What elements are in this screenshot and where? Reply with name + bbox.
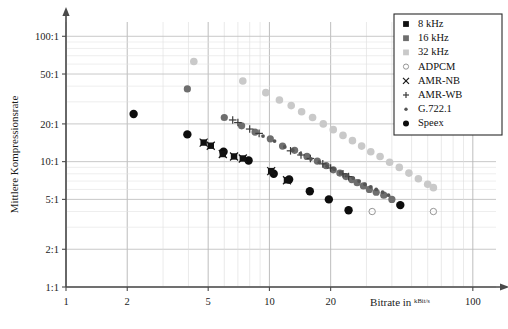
- data-point: [298, 108, 306, 116]
- legend-label: Speex: [418, 117, 444, 128]
- legend-marker: [403, 35, 409, 41]
- legend-label: 32 kHz: [418, 46, 449, 57]
- compression-rate-vs-bitrate-chart: 1:12:15:110:120:150:1100:11251020100Mitt…: [0, 0, 508, 329]
- legend-marker: [404, 108, 407, 111]
- x-axis-label: Bitrate in kBit/s: [370, 296, 430, 308]
- y-tick-label: 5:1: [46, 194, 59, 205]
- data-point: [349, 137, 357, 145]
- data-point: [208, 143, 214, 149]
- x-tick-label: 20: [325, 296, 336, 307]
- y-tick-label: 20:1: [40, 119, 59, 130]
- data-point: [367, 148, 375, 156]
- data-point: [329, 126, 337, 134]
- data-point: [306, 187, 314, 195]
- data-point: [381, 190, 385, 194]
- data-point: [268, 168, 274, 174]
- legend-label: 8 kHz: [418, 18, 444, 29]
- legend-label: G.722.1: [418, 103, 452, 114]
- legend-label: ADPCM: [418, 61, 456, 72]
- data-point: [231, 153, 237, 159]
- data-point: [395, 164, 403, 172]
- legend-marker: [403, 120, 409, 126]
- data-point: [220, 151, 226, 157]
- legend-label: AMR-NB: [418, 75, 460, 86]
- data-point: [376, 153, 384, 161]
- data-point: [357, 179, 361, 183]
- data-point: [396, 201, 404, 209]
- data-point: [200, 139, 206, 145]
- data-point: [190, 58, 198, 66]
- data-point: [129, 110, 137, 118]
- data-point: [339, 132, 347, 140]
- data-point: [351, 176, 355, 180]
- data-point: [309, 157, 313, 161]
- data-point: [284, 177, 290, 183]
- x-tick-label: 2: [125, 296, 130, 307]
- data-point: [273, 139, 277, 143]
- data-point: [262, 89, 270, 97]
- data-point: [332, 167, 336, 171]
- data-point: [317, 160, 321, 164]
- y-tick-label: 100:1: [35, 31, 59, 42]
- data-point: [358, 142, 366, 150]
- legend-marker: [403, 21, 409, 27]
- data-point: [386, 158, 394, 166]
- legend-label: AMR-WB: [418, 89, 462, 100]
- data-series-group: [129, 58, 437, 215]
- data-point: [283, 145, 287, 149]
- data-point: [387, 193, 391, 197]
- data-point: [374, 188, 378, 192]
- data-point: [415, 175, 423, 183]
- data-point: [325, 195, 333, 203]
- data-point: [239, 77, 247, 85]
- data-point: [345, 173, 349, 177]
- data-point: [430, 184, 438, 192]
- data-point: [261, 134, 265, 138]
- data-point: [291, 148, 295, 152]
- data-point: [344, 206, 352, 214]
- data-point: [325, 164, 329, 168]
- data-point: [309, 114, 317, 122]
- data-point: [363, 182, 367, 186]
- y-tick-label: 50:1: [40, 69, 59, 80]
- x-tick-label: 100: [465, 296, 481, 307]
- y-tick-label: 10:1: [40, 156, 59, 167]
- chart-figure: 1:12:15:110:120:150:1100:11251020100Mitt…: [0, 0, 508, 329]
- y-axis-label: Mittlere Kompressionsrate: [8, 96, 20, 214]
- data-point: [183, 130, 191, 138]
- data-point: [238, 122, 245, 129]
- data-point: [319, 120, 327, 128]
- data-point: [369, 185, 373, 189]
- data-point: [339, 171, 343, 175]
- x-tick-label: 5: [206, 296, 211, 307]
- data-point: [287, 102, 295, 110]
- x-tick-label: 10: [264, 296, 275, 307]
- data-point: [298, 152, 302, 156]
- data-point: [221, 114, 228, 121]
- y-tick-label: 1:1: [46, 282, 59, 293]
- legend-marker: [403, 50, 409, 56]
- data-point: [240, 155, 246, 161]
- data-point: [405, 169, 413, 177]
- y-tick-label: 2:1: [46, 244, 59, 255]
- x-tick-label: 1: [63, 296, 68, 307]
- legend: 8 kHz16 kHz32 kHzADPCMAMR-NBAMR-WBG.722.…: [394, 14, 502, 135]
- data-point: [276, 96, 284, 104]
- legend-label: 16 kHz: [418, 32, 449, 43]
- data-point: [184, 85, 191, 92]
